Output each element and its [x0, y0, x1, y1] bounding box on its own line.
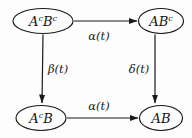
- node-label-top-left: AcBc: [13, 15, 73, 28]
- edge-label-left-edge: β(t): [38, 64, 78, 76]
- node-label-bottom-right: AB: [139, 112, 183, 125]
- edge-label-right-edge: δ(t): [119, 64, 159, 76]
- edge-label-bottom-edge: α(t): [79, 101, 119, 113]
- commutative-diagram: AcBc ABc AcB AB α(t) β(t) δ(t) α(t): [0, 0, 192, 138]
- edge-label-top-edge: α(t): [79, 31, 119, 43]
- node-label-top-right: ABc: [138, 15, 184, 28]
- node-label-bottom-left: AcB: [16, 112, 66, 125]
